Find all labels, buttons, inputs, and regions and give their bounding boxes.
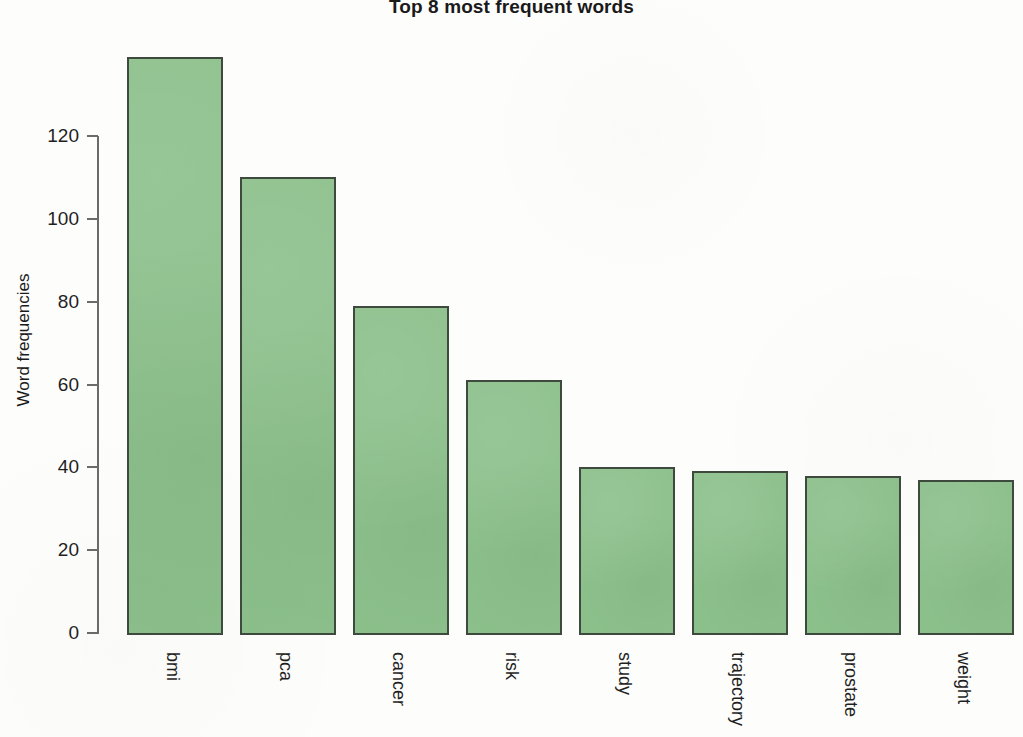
y-tick-mark: [87, 466, 98, 468]
bar-study: [579, 467, 675, 635]
y-tick-label: 100: [39, 209, 79, 228]
y-axis-title: Word frequencies: [14, 240, 34, 440]
y-tick-label: 40: [39, 457, 79, 476]
bar-prostate: [805, 476, 901, 635]
chart-page: Top 8 most frequent words Word frequenci…: [0, 0, 1023, 737]
x-tick-label-risk: risk: [501, 652, 522, 680]
y-tick-label: 60: [39, 375, 79, 394]
y-tick-mark: [87, 384, 98, 386]
y-tick-mark: [87, 301, 98, 303]
x-tick-label-weight: weight: [953, 652, 974, 704]
bar-pca: [240, 177, 336, 635]
bar-trajectory: [692, 471, 788, 635]
bar-fill-texture: [807, 478, 899, 633]
x-tick-label-trajectory: trajectory: [727, 652, 748, 726]
y-tick-label: 0: [39, 623, 79, 642]
y-tick-label: 20: [39, 540, 79, 559]
bar-fill-texture: [468, 382, 560, 633]
bar-fill-texture: [242, 179, 334, 633]
x-tick-label-cancer: cancer: [388, 652, 409, 706]
y-tick-mark: [87, 632, 98, 634]
bar-fill-texture: [129, 59, 221, 633]
bar-fill-texture: [581, 469, 673, 633]
x-tick-label-pca: pca: [275, 652, 296, 681]
x-tick-label-bmi: bmi: [162, 652, 183, 681]
bar-cancer: [353, 306, 449, 635]
bar-risk: [466, 380, 562, 635]
y-tick-label: 80: [39, 292, 79, 311]
y-tick-mark: [87, 135, 98, 137]
y-tick-mark: [87, 549, 98, 551]
bar-fill-texture: [355, 308, 447, 633]
y-tick-mark: [87, 218, 98, 220]
x-tick-label-study: study: [614, 652, 635, 695]
bar-fill-texture: [694, 473, 786, 633]
y-tick-label: 120: [39, 126, 79, 145]
bar-bmi: [127, 57, 223, 635]
bar-fill-texture: [920, 482, 1012, 633]
plot-area: Word frequencies 020406080100120 bmipcac…: [0, 0, 1023, 737]
x-tick-label-prostate: prostate: [840, 652, 861, 717]
bar-weight: [918, 480, 1014, 635]
